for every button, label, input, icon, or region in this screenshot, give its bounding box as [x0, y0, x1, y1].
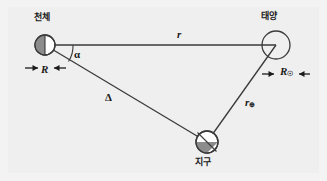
diagram-canvas	[0, 0, 327, 181]
edge-r-earth-to-sun	[207, 45, 276, 142]
astronomy-diagram-figure: 천체 태양 지구 r α Δ R R☉ r⊕	[0, 0, 327, 181]
sun-circle	[262, 31, 290, 59]
radius-Rsun-measure	[262, 71, 310, 77]
radius-R-measure	[25, 65, 66, 71]
